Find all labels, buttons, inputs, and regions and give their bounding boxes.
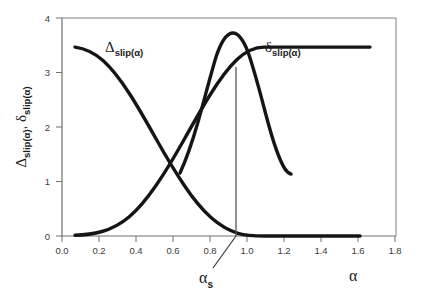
curve-label-delta-sub: slip(α) <box>115 47 144 58</box>
y-axis-title-delta-upper: Δ <box>13 158 29 168</box>
y-tick-label-0: 0 <box>45 231 50 242</box>
y-tick-label-2: 2 <box>45 122 50 133</box>
y-axis-title-delta-lower: δ <box>13 115 29 122</box>
y-tick-label-4: 4 <box>45 13 50 24</box>
x-tick-label-5: 1.0 <box>240 245 253 256</box>
curve-label-delta-lower-sub: slip(α) <box>272 47 301 58</box>
x-tick-label-4: 0.8 <box>203 245 216 256</box>
alpha-s-sub: s <box>207 279 213 290</box>
x-tick-label-6: 1.2 <box>277 245 290 256</box>
y-tick-label-3: 3 <box>45 67 50 78</box>
y-axis-title-sub-1: slip(α) <box>21 129 32 158</box>
curve-label-delta-main: Δ <box>105 39 115 55</box>
x-tick-label-0: 0.0 <box>55 245 68 256</box>
x-tick-label-7: 1.4 <box>314 245 327 256</box>
x-tick-label-3: 0.6 <box>166 245 179 256</box>
y-axis-title-sub-2: slip(α) <box>21 86 32 115</box>
x-axis-symbol-label: α <box>349 267 358 284</box>
slip-angle-chart: 4 3 2 1 0 0.0 0.2 0.4 0.6 0.8 1.0 1.2 1.… <box>0 0 422 295</box>
x-tick-label-8: 1.6 <box>351 245 364 256</box>
y-tick-label-1: 1 <box>45 176 50 187</box>
curve-label-delta-lower-main: δ <box>265 39 272 55</box>
x-tick-label-9: 1.8 <box>388 245 401 256</box>
x-tick-label-2: 0.4 <box>129 245 142 256</box>
x-tick-label-1: 0.2 <box>92 245 105 256</box>
